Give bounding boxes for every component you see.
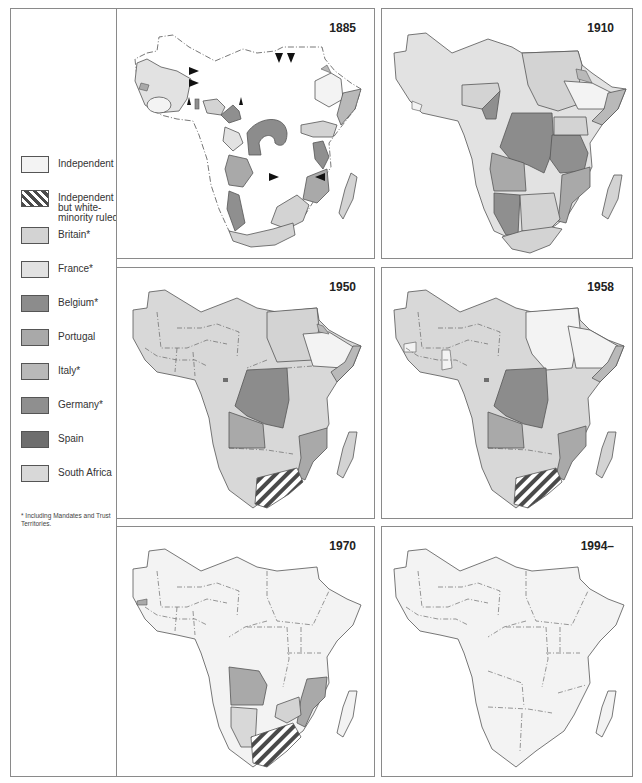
swatch-hatched — [21, 190, 49, 207]
africa-map-1885 — [117, 9, 376, 260]
legend-label: Independent — [58, 159, 114, 169]
africa-map-1994 — [382, 527, 634, 778]
map-year-label: 1958 — [587, 280, 614, 294]
map-year-label: 1950 — [329, 280, 356, 294]
legend-label: Italy* — [58, 366, 80, 376]
legend-panel: Independent Independent but white-minori… — [10, 8, 117, 777]
legend-label: Portugal — [58, 332, 95, 342]
legend-label: Germany* — [58, 400, 103, 410]
swatch-britain — [21, 227, 49, 244]
legend-label: South Africa — [58, 468, 112, 478]
africa-map-1958 — [382, 268, 634, 520]
swatch-independent — [21, 156, 49, 173]
legend-label: Spain — [58, 434, 84, 444]
swatch-portugal — [21, 329, 49, 346]
legend-label: Independent but white-minority ruled — [58, 193, 120, 223]
map-panel-1994: 1994– — [381, 526, 633, 777]
map-panel-1910: 1910 — [381, 8, 633, 259]
legend-footnote: * Including Mandates and Trust Territori… — [21, 512, 116, 528]
legend-item-italy: Italy* — [21, 363, 80, 380]
swatch-france — [21, 261, 49, 278]
map-panel-1958: 1958 — [381, 267, 633, 519]
swatch-belgium — [21, 295, 49, 312]
legend-item-britain: Britain* — [21, 227, 90, 244]
legend-label: Belgium* — [58, 298, 98, 308]
map-panel-1950: 1950 — [116, 267, 375, 519]
swatch-spain — [21, 431, 49, 448]
map-panel-1970: 1970 — [116, 526, 375, 777]
map-year-label: 1970 — [329, 539, 356, 553]
legend-item-white-minority: Independent but white-minority ruled — [21, 190, 120, 223]
africa-map-1910 — [382, 9, 634, 260]
legend-item-france: France* — [21, 261, 93, 278]
legend-item-spain: Spain — [21, 431, 84, 448]
swatch-italy — [21, 363, 49, 380]
africa-map-1950 — [117, 268, 376, 520]
legend-label: Britain* — [58, 230, 90, 240]
africa-map-1970 — [117, 527, 376, 778]
map-year-label: 1885 — [329, 21, 356, 35]
legend-item-independent: Independent — [21, 156, 114, 173]
legend-label: France* — [58, 264, 93, 274]
map-year-label: 1994– — [581, 539, 614, 553]
legend-item-south-africa: South Africa — [21, 465, 112, 482]
legend-item-belgium: Belgium* — [21, 295, 98, 312]
swatch-germany — [21, 397, 49, 414]
legend-item-germany: Germany* — [21, 397, 103, 414]
swatch-south-africa — [21, 465, 49, 482]
legend-item-portugal: Portugal — [21, 329, 95, 346]
map-panel-1885: 1885 — [116, 8, 375, 259]
map-year-label: 1910 — [587, 21, 614, 35]
